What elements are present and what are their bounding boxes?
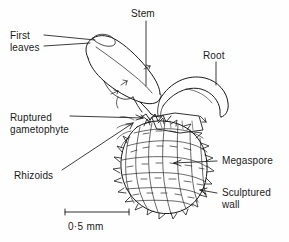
label-sculptured-wall: Sculpturedwall [222,187,271,210]
leader-ruptured [70,116,143,118]
label-first-leaves-line1: First [10,30,30,41]
stem-drawing [133,97,161,117]
label-stem: Stem [131,8,155,20]
botanical-figure: Firstleaves Stem Root Rupturedgametophyt… [0,0,289,242]
scale-bar-label: 0·5 mm [68,221,104,233]
label-sculptured-line2: wall [222,199,240,210]
label-ruptured-line1: Ruptured [10,112,52,123]
megaspore-drawing [113,118,214,219]
label-first-leaves-line2: leaves [10,42,40,53]
label-ruptured-gametophyte: Rupturedgametophyte [10,112,69,135]
first-leaves-drawing [86,34,161,108]
scale-bar-drawing [65,209,129,215]
leader-rhizoids [62,123,133,170]
label-root: Root [203,50,225,62]
root-drawing [158,77,229,117]
leader-first-leaves [44,35,95,40]
label-rhizoids: Rhizoids [14,170,53,182]
label-first-leaves: Firstleaves [10,30,40,53]
label-megaspore: Megaspore [222,155,273,167]
label-sculptured-line1: Sculptured [222,187,271,198]
leader-first-leaves-2 [44,43,90,46]
label-ruptured-line2: gametophyte [10,124,69,135]
